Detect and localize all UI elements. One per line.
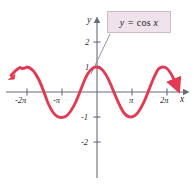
x-axis-name-label: x xyxy=(180,95,184,105)
x-tick-label-neg-pi: -π xyxy=(53,96,60,105)
x-tick-label-pi: π xyxy=(129,96,133,105)
cosine-graph-figure: -2π -π π 2π 2 1 -1 -2 y x y = cos x xyxy=(0,0,194,185)
y-tick-label-1: 1 xyxy=(85,63,89,72)
curve-equation-label-text: y = cos x xyxy=(120,17,158,28)
equation-variable: x xyxy=(154,17,159,28)
y-axis-name-label: y xyxy=(87,16,91,26)
y-tick-label-neg-2: -2 xyxy=(81,138,88,147)
curve-equation-label-box: y = cos x xyxy=(107,11,171,33)
x-tick-label-2pi: 2π xyxy=(160,96,169,105)
y-tick-label-neg-1: -1 xyxy=(81,113,88,122)
y-tick-label-2: 2 xyxy=(85,38,89,47)
equation-function-name: cos xyxy=(137,17,151,28)
x-tick-label-neg-2pi: -2π xyxy=(15,96,26,105)
